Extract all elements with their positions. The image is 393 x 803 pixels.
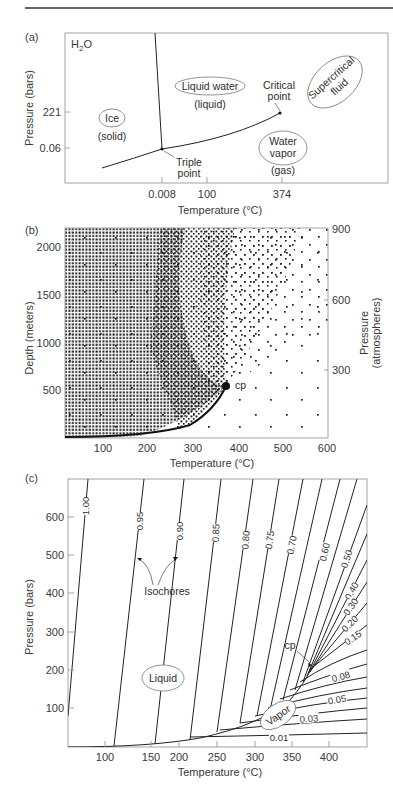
isochore-label-0.05: 0.05 <box>327 692 347 706</box>
sublimation-curve <box>102 149 162 168</box>
xtick-label-0008: 0.008 <box>148 188 176 200</box>
ytick-c-400: 400 <box>46 587 64 599</box>
xtick-c-300: 300 <box>246 751 264 763</box>
xtick-b-200: 200 <box>138 442 156 454</box>
cp-marker <box>222 382 230 390</box>
isochore-labels: 1.00 0.95 0.90 0.85 0.80 0.75 0.70 0.60 … <box>80 497 363 743</box>
cp-label-b: cp <box>235 379 246 391</box>
water-vapor-label-2: vapor <box>270 147 297 159</box>
panel-c-label: (c) <box>25 472 38 484</box>
isochore-0.75 <box>240 479 279 723</box>
xtick-b-100: 100 <box>94 442 112 454</box>
panel-b-xlabel: Temperature (°C) <box>170 457 254 469</box>
ytick-label-1500: 1500 <box>37 289 61 301</box>
xtick-label-100: 100 <box>198 188 216 200</box>
panel-b-ylabel: Depth (meters) <box>23 301 35 374</box>
panel-a: (a) H2O 221 0.06 Pressure (bars) 0.008 1… <box>23 31 388 216</box>
ytick-label-500: 500 <box>43 384 61 396</box>
critical-point-marker <box>278 111 281 114</box>
ytick-label-006: 0.06 <box>40 142 61 154</box>
liquid-water-label: Liquid water <box>182 80 239 92</box>
isochore-0.90 <box>155 479 184 744</box>
ice-sublabel: (solid) <box>98 130 127 142</box>
isochore-label-1.00: 1.00 <box>80 497 91 516</box>
isochore-label-0.75: 0.75 <box>263 530 276 550</box>
panel-a-label: (a) <box>25 31 38 43</box>
isochore-label-0.70: 0.70 <box>284 535 298 555</box>
supercritical-group: Supercritical fluid <box>298 46 372 119</box>
panel-b: (b) <box>23 223 382 469</box>
xtick-c-100: 100 <box>96 751 114 763</box>
liquid-label: Liquid <box>149 672 177 684</box>
panel-b-ylabel-right-1: Pressure <box>358 311 370 355</box>
isochore-0.02 <box>220 719 367 730</box>
panel-c-ylabel: Pressure (bars) <box>23 579 35 655</box>
panel-c: (c) <box>23 472 367 778</box>
rtick-label-900: 900 <box>332 223 350 235</box>
isochore-label-0.90: 0.90 <box>174 522 185 541</box>
isochore-0.60 <box>283 479 340 700</box>
isochore-0.50 <box>303 505 367 682</box>
panel-c-xticks <box>105 741 329 747</box>
critical-point-label-2: point <box>268 90 291 102</box>
ytick-c-200: 200 <box>46 664 64 676</box>
isochores-arrow-left <box>139 559 153 585</box>
density-dots <box>65 228 328 438</box>
isochore-0.40 <box>309 560 367 673</box>
isochore-label-0.08: 0.08 <box>331 669 352 684</box>
xtick-b-400: 400 <box>230 442 248 454</box>
panel-c-xlabel: Temperature (°C) <box>178 766 262 778</box>
isochore-label-0.95: 0.95 <box>134 512 145 531</box>
xtick-c-200: 200 <box>170 751 188 763</box>
xtick-b-600: 600 <box>318 442 336 454</box>
isochores-label: Isochores <box>144 585 190 597</box>
xtick-c-400: 400 <box>320 751 338 763</box>
melting-curve <box>155 33 162 149</box>
ytick-label-1000: 1000 <box>37 337 61 349</box>
triple-point-marker <box>160 147 163 150</box>
ytick-c-600: 600 <box>46 511 64 523</box>
triple-point-label-2: point <box>178 167 201 179</box>
panel-c-frame <box>68 479 367 747</box>
water-vapor-label-1: Water <box>269 135 297 147</box>
isochore-lines <box>68 479 367 747</box>
isochore-label-0.50: 0.50 <box>338 548 354 569</box>
isochore-label-0.03: 0.03 <box>299 712 318 725</box>
ice-label: Ice <box>105 112 119 124</box>
panel-b-label: (b) <box>25 224 38 236</box>
isochore-0.80 <box>217 479 253 732</box>
xtick-b-300: 300 <box>184 442 202 454</box>
xtick-b-500: 500 <box>274 442 292 454</box>
ytick-c-100: 100 <box>46 702 64 714</box>
liquid-sublabel: (liquid) <box>194 98 226 110</box>
figure-canvas: (a) H2O 221 0.06 Pressure (bars) 0.008 1… <box>0 0 393 803</box>
isochore-label-0.01: 0.01 <box>270 732 289 743</box>
xtick-label-374: 374 <box>273 188 291 200</box>
ytick-c-300: 300 <box>46 626 64 638</box>
ytick-label-2000: 2000 <box>37 241 61 253</box>
panel-a-title: H2O <box>71 38 92 53</box>
rtick-label-600: 600 <box>332 294 350 306</box>
vapor-group: Vapor <box>255 695 300 736</box>
panel-a-ylabel: Pressure (bars) <box>23 70 35 146</box>
panel-a-frame <box>65 33 388 183</box>
rtick-label-300: 300 <box>332 364 350 376</box>
ytick-c-500: 500 <box>46 549 64 561</box>
cp-label-c: cp <box>284 639 295 651</box>
xtick-c-350: 350 <box>283 751 301 763</box>
panel-b-ylabel-right-2: (atmospheres) <box>370 298 382 369</box>
gas-sublabel: (gas) <box>271 164 295 176</box>
isochore-0.30 <box>310 582 367 672</box>
triple-point-leader <box>164 151 174 157</box>
xtick-c-250: 250 <box>208 751 226 763</box>
panel-a-xlabel: Temperature (°C) <box>178 204 262 216</box>
xtick-c-150: 150 <box>142 751 160 763</box>
isochore-label-0.85: 0.85 <box>210 524 222 543</box>
isochore-0.70 <box>257 479 303 716</box>
ytick-label-221: 221 <box>43 106 61 118</box>
isochore-0.85 <box>190 479 221 740</box>
critical-point-leader <box>275 103 280 111</box>
isochore-label-0.60: 0.60 <box>317 542 332 563</box>
isochore-label-0.80: 0.80 <box>239 530 252 549</box>
